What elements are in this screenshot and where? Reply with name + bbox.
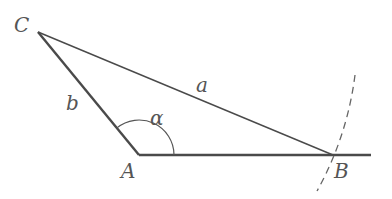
label-vertex-c: C — [14, 13, 29, 37]
label-side-a: a — [196, 73, 208, 97]
label-vertex-a: A — [119, 159, 135, 183]
triangle-diagram: C A B a b α — [0, 0, 392, 199]
label-angle-alpha: α — [150, 106, 164, 130]
side-b — [38, 32, 139, 155]
side-a — [38, 32, 333, 155]
label-vertex-b: B — [333, 159, 349, 183]
label-side-b: b — [66, 91, 79, 115]
